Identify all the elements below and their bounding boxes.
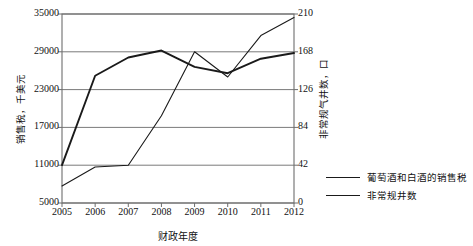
y-axis-right-tick-label: 168 (298, 46, 338, 56)
y-axis-right-tick-label: 42 (298, 159, 338, 169)
series-line-1 (62, 18, 294, 186)
x-axis-tick-label: 2012 (274, 207, 314, 217)
series-line-0 (62, 51, 294, 166)
chart-legend: 葡萄酒和白酒的销售税 非常规井数 (326, 168, 472, 204)
legend-label-sales-tax: 葡萄酒和白酒的销售税 (367, 170, 467, 184)
legend-swatch-well-count (326, 195, 360, 196)
plot-frame (62, 14, 294, 203)
y-axis-left-tick-label: 29000 (15, 46, 59, 56)
y-axis-left-tick-label: 11000 (15, 159, 59, 169)
y-axis-right-tick-label: 126 (298, 84, 338, 94)
legend-item-well-count: 非常规井数 (326, 186, 472, 204)
y-axis-left-tick-label: 23000 (15, 84, 59, 94)
legend-swatch-sales-tax (326, 177, 360, 178)
legend-item-sales-tax: 葡萄酒和白酒的销售税 (326, 168, 472, 186)
y-axis-right-tick-label: 210 (298, 8, 338, 18)
y-axis-left-tick-label: 35000 (15, 8, 59, 18)
legend-label-well-count: 非常规井数 (367, 188, 417, 202)
y-axis-right-tick-label: 0 (298, 197, 338, 207)
y-axis-left-tick-label: 17000 (15, 121, 59, 131)
dual-axis-line-chart: 销售税，千美元 非常规气井数，口 财政年度 葡萄酒和白酒的销售税 非常规井数 5… (0, 0, 473, 246)
y-axis-right-tick-label: 84 (298, 121, 338, 131)
